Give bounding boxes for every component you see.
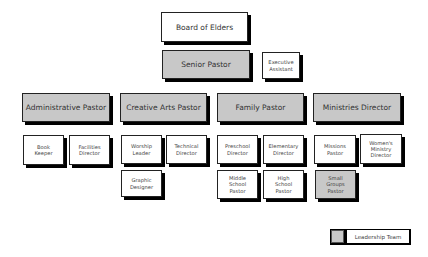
administrative-pastor-label: Administrative Pastor [26,103,106,112]
womens-ministry-director-box: Women's Ministry Director [360,134,402,164]
preschool-director-label: Preschool Director [225,143,250,155]
graphic-designer-box: Graphic Designer [121,170,162,197]
legend: Leadership Team [330,229,411,245]
book-keeper-box: Book Keeper [23,135,64,165]
small-groups-pastor-label: Small Groups Pastor [326,175,345,194]
facilities-director-label: Facilities Director [78,144,100,156]
senior-pastor-label: Senior Pastor [181,60,231,69]
worship-leader-label: Worship Leader [131,143,152,155]
missions-pastor-box: Missions Pastor [314,135,356,164]
book-keeper-label: Book Keeper [34,144,52,156]
technical-director-label: Technical Director [175,143,199,155]
graphic-designer-label: Graphic Designer [130,177,153,189]
senior-pastor-box: Senior Pastor [162,50,250,79]
middle-school-pastor-box: Middle School Pastor [217,170,258,199]
elementary-director-label: Elementary Director [269,143,299,155]
ministries-director-label: Ministries Director [323,103,391,112]
technical-director-box: Technical Director [166,135,207,164]
preschool-director-box: Preschool Director [217,135,258,164]
elementary-director-box: Elementary Director [263,135,304,164]
executive-assistant-box: Executive Assistant [262,52,300,79]
family-pastor-box: Family Pastor [217,93,304,122]
legend-label: Leadership Team [347,230,409,243]
administrative-pastor-box: Administrative Pastor [22,93,110,122]
worship-leader-box: Worship Leader [121,135,162,164]
missions-pastor-label: Missions Pastor [324,143,346,155]
family-pastor-label: Family Pastor [236,103,286,112]
womens-ministry-director-label: Women's Ministry Director [369,140,393,159]
creative-arts-pastor-label: Creative Arts Pastor [126,103,201,112]
board-of-elders-label: Board of Elders [176,23,233,32]
small-groups-pastor-box: Small Groups Pastor [315,170,356,199]
high-school-pastor-box: High School Pastor [263,170,304,199]
high-school-pastor-label: High School Pastor [275,175,292,194]
ministries-director-box: Ministries Director [313,93,401,122]
leadership-swatch-icon [331,230,344,243]
executive-assistant-label: Executive Assistant [268,59,293,71]
facilities-director-box: Facilities Director [69,135,110,165]
creative-arts-pastor-box: Creative Arts Pastor [120,93,207,122]
board-of-elders-box: Board of Elders [161,12,248,42]
middle-school-pastor-label: Middle School Pastor [229,175,246,194]
